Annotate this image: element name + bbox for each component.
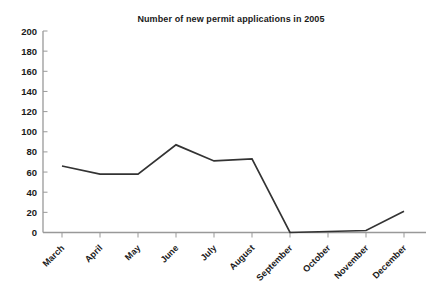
x-tick-label: May [123, 243, 142, 262]
x-tick-label: October [301, 242, 333, 274]
x-tick-label: December [371, 242, 409, 280]
x-tick-label: April [83, 243, 105, 265]
x-tick-label: November [332, 242, 371, 281]
y-tick-label: 40 [26, 187, 37, 198]
y-tick-label: 120 [21, 106, 37, 117]
x-tick-label: March [41, 243, 67, 269]
y-tick-label: 60 [26, 167, 37, 178]
y-tick-label: 0 [32, 227, 37, 238]
x-tick-label: June [158, 243, 180, 265]
y-tick-label: 200 [21, 26, 37, 37]
x-tick-label: September [254, 243, 294, 283]
x-tick-label: July [199, 243, 219, 263]
y-tick-label: 20 [26, 207, 37, 218]
x-tick-label: August [227, 243, 256, 272]
y-tick-label: 140 [21, 86, 37, 97]
y-tick-label: 160 [21, 66, 37, 77]
y-tick-label: 100 [21, 126, 37, 137]
data-line [62, 145, 404, 233]
chart-page: Number of new permit applications in 200… [0, 0, 448, 289]
y-tick-label: 180 [21, 46, 37, 57]
y-tick-label: 80 [26, 146, 37, 157]
line-chart-canvas: 020406080100120140160180200MarchAprilMay… [0, 0, 448, 289]
